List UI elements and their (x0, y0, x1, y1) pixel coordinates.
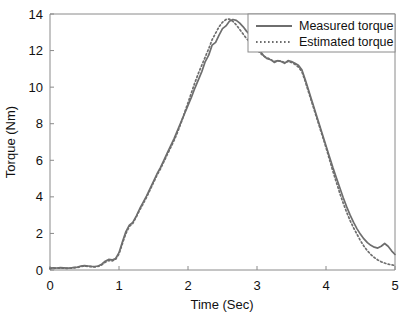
y-tick-label: 10 (29, 80, 43, 95)
x-tick-label: 4 (322, 278, 329, 293)
legend: Measured torque Estimated torque (248, 14, 395, 52)
y-tick-label: 14 (29, 7, 43, 22)
x-tick-label: 5 (391, 278, 398, 293)
x-tick-label: 2 (184, 278, 191, 293)
y-axis-label: Torque (Nm) (3, 106, 18, 178)
x-tick-label: 1 (115, 278, 122, 293)
legend-label-measured-torque: Measured torque (299, 19, 394, 33)
legend-label-estimated-torque: Estimated torque (299, 35, 394, 49)
x-tick-label: 3 (253, 278, 260, 293)
y-tick-label: 4 (36, 189, 43, 204)
y-tick-label: 12 (29, 43, 43, 58)
y-tick-label: 6 (36, 153, 43, 168)
chart-svg: 02468101214 012345 Time (Sec) Torque (Nm… (0, 0, 416, 319)
torque-chart-figure: 02468101214 012345 Time (Sec) Torque (Nm… (0, 0, 416, 319)
x-tick-label: 0 (46, 278, 53, 293)
y-tick-label: 2 (36, 226, 43, 241)
y-tick-label: 8 (36, 116, 43, 131)
x-axis-label: Time (Sec) (190, 297, 253, 312)
y-tick-label: 0 (36, 263, 43, 278)
